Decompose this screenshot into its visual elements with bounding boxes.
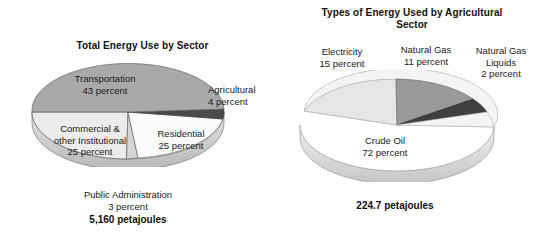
chart-title-types-of-energy: Types of Energy Used by Agricultural Sec…	[307, 7, 517, 31]
pie-label-commercial-other-institutional: Commercial & other Institutional 25 perc…	[38, 123, 142, 158]
pie-label-natural-gas: Natural Gas 11 percent	[390, 44, 462, 67]
pie-label-residential: Residential 25 percent	[142, 128, 220, 151]
pie-label-agricultural: Agricultural 4 percent	[208, 84, 284, 107]
pie-chart-types-of-energy	[295, 70, 500, 182]
pie-svg-types-of-energy	[295, 70, 500, 182]
chart-panel-types-of-energy: Types of Energy Used by Agricultural Sec…	[285, 0, 540, 237]
chart-panel-total-energy-use: Total Energy Use by Sector	[0, 0, 285, 237]
pie-label-electricity: Electricity 15 percent	[305, 46, 379, 69]
chart-title-total-energy-use: Total Energy Use by Sector	[20, 40, 265, 52]
pie-label-transportation: Transportation 43 percent	[55, 73, 155, 96]
pie-slice-electricity[interactable]	[304, 79, 397, 125]
pie-label-public-administration: Public Administration 3 percent	[58, 189, 198, 212]
pie-label-crude-oil: Crude Oil 72 percent	[340, 135, 430, 158]
pie-label-natural-gas-liquids: Natural Gas Liquids 2 percent	[465, 45, 537, 80]
chart-total-total-energy-use: 5,160 petajoules	[58, 214, 198, 225]
chart-total-types-of-energy: 224.7 petajoules	[330, 200, 460, 211]
